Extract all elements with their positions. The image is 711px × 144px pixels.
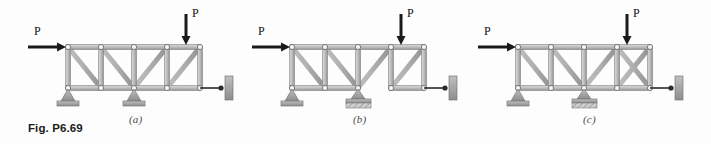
truss-c-load-horizontal-arrow [478, 43, 516, 52]
truss-a-vertical-load-label: P [192, 6, 199, 21]
truss-c-horizontal-load-label: P [484, 24, 491, 39]
truss-c-vertical-load-label: P [633, 6, 640, 21]
figure-caption: Fig. P6.69 [28, 122, 83, 134]
truss-c-support-link-right [650, 76, 683, 100]
truss-a-load-vertical-arrow [182, 14, 191, 45]
truss-a-support-pin-middle [123, 89, 145, 106]
truss-b-vertical-load-label: P [407, 6, 414, 21]
truss-c-support-fixed-middle [572, 89, 597, 108]
figure-container: P P (a) [0, 0, 711, 144]
truss-a-panel-label: (a) [129, 113, 142, 125]
truss-b-panel-label: (b) [353, 113, 366, 125]
truss-a-support-link-right [200, 76, 233, 100]
truss-diagram-b: P P (b) [240, 0, 480, 144]
truss-a-load-horizontal-arrow [28, 43, 66, 52]
truss-diagram-c: P P (c) [470, 0, 711, 144]
truss-c-support-pin-left [507, 89, 529, 106]
truss-a-support-pin-left [57, 89, 79, 106]
truss-b-bottom-chord-right-segment [389, 86, 424, 91]
truss-b-support-pin-left [281, 89, 303, 106]
truss-b-support-link-right [424, 76, 457, 100]
truss-c-load-vertical-arrow [623, 14, 632, 45]
truss-b-support-fixed-middle [346, 89, 371, 108]
truss-c-panel-label: (c) [583, 113, 596, 125]
truss-b-load-horizontal-arrow [252, 43, 290, 52]
truss-a-horizontal-load-label: P [34, 24, 41, 39]
truss-b-horizontal-load-label: P [258, 24, 265, 39]
truss-b-load-vertical-arrow [397, 14, 406, 45]
